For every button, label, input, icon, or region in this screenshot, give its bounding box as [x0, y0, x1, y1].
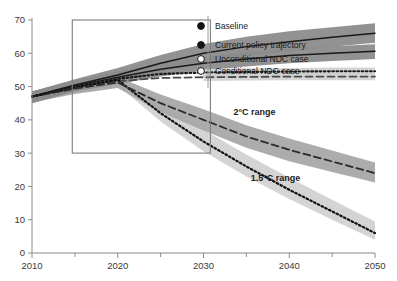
annotation-label: 1.5°C range	[251, 173, 301, 183]
legend-marker-open-circle	[198, 68, 205, 75]
legend-label[interactable]: Baseline	[215, 21, 248, 31]
x-tick-label: 2030	[193, 260, 214, 271]
legend-label[interactable]: Unconditional NDC case	[215, 54, 309, 64]
y-tick-label: 70	[14, 14, 25, 25]
chart-canvas: 706050403020100 20102020203020402050 2°C…	[0, 0, 397, 281]
y-tick-label: 0	[20, 247, 25, 258]
legend-label[interactable]: Conditional NDC case	[215, 66, 300, 76]
x-tick-label: 2010	[21, 260, 42, 271]
x-axis-ticks: 20102020203020402050	[21, 253, 385, 271]
emissions-gap-chart: 706050403020100 20102020203020402050 2°C…	[0, 0, 397, 281]
legend-marker-filled-circle	[198, 23, 205, 30]
y-tick-label: 50	[14, 81, 25, 92]
y-tick-label: 10	[14, 214, 25, 225]
annotation-label: 2°C range	[234, 107, 276, 117]
y-axis-ticks: 706050403020100	[14, 14, 32, 258]
x-tick-label: 2050	[364, 260, 385, 271]
y-tick-label: 60	[14, 48, 25, 59]
legend-label[interactable]: Current policy trajectory	[215, 40, 306, 50]
y-tick-label: 30	[14, 148, 25, 159]
y-tick-label: 20	[14, 181, 25, 192]
x-tick-label: 2040	[279, 260, 300, 271]
legend-marker-filled-circle	[198, 42, 205, 49]
band-2-c-range	[32, 77, 375, 183]
x-tick-label: 2020	[107, 260, 128, 271]
legend-marker-open-circle	[198, 56, 205, 63]
y-tick-label: 40	[14, 114, 25, 125]
